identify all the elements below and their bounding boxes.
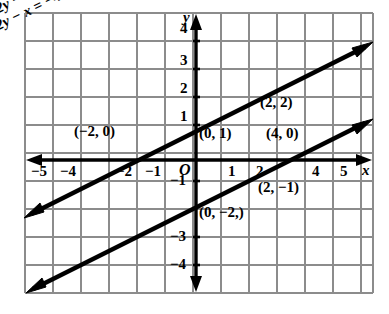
line-lower-arrow-right (352, 119, 373, 134)
y-axis-arrow-up (190, 14, 202, 30)
y-tick-label-minus1: −1 (170, 173, 186, 188)
y-tick-label-4: 4 (180, 21, 188, 36)
y-tick-label-3: 3 (180, 53, 188, 68)
point-label-0-minus2: (0, −2,) (199, 205, 244, 220)
x-tick-label-1: 1 (228, 164, 236, 179)
point-label-0-1: (0, 1) (199, 126, 232, 141)
x-tick-label-4: 4 (312, 164, 320, 179)
line-upper-arrow-left (24, 203, 44, 218)
coordinate-plane-svg (0, 0, 389, 314)
x-tick-label-minus1: −1 (145, 164, 161, 179)
x-tick-label-minus2: −2 (116, 164, 132, 179)
grid-lines (25, 13, 373, 293)
x-tick-label-minus5: −5 (31, 164, 47, 179)
x-tick-label-2: 2 (256, 164, 264, 179)
y-tick-label-2: 2 (180, 81, 188, 96)
graph-figure: −5 −4 −2 −1 1 2 4 5 O x y 4 3 2 1 −1 −3 … (0, 0, 389, 314)
point-label-4-0: (4, 0) (266, 126, 299, 141)
y-axis-arrow-down (190, 276, 202, 292)
line-lower-arrow-left (26, 278, 46, 293)
point-label-2-minus1: (2, −1) (258, 180, 299, 195)
y-tick-label-minus3: −3 (170, 229, 186, 244)
line-upper-arrow-right (352, 42, 373, 57)
y-tick-label-1: 1 (180, 109, 188, 124)
point-label-2-2: (2, 2) (260, 95, 293, 110)
x-tick-label-5: 5 (340, 164, 348, 179)
x-axis-label: x (362, 163, 370, 178)
y-tick-label-minus4: −4 (170, 257, 186, 272)
x-tick-label-minus4: −4 (60, 164, 76, 179)
point-label-minus2-0: (−2, 0) (74, 124, 115, 139)
